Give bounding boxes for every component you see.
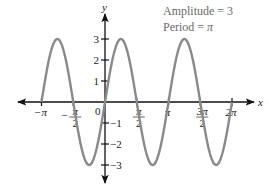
y-tick-label: −1 [110, 117, 122, 129]
x-tick-label: −π [34, 106, 47, 118]
y-tick-label: 1 [94, 75, 100, 87]
origin-label: 0 [95, 105, 101, 117]
x-axis-label: x [257, 96, 263, 108]
y-tick-label: 3 [94, 33, 100, 45]
y-axis-label: y [101, 1, 107, 13]
annotation: Amplitude = 3 Period = π [163, 3, 233, 35]
period-text: Period = π [163, 19, 233, 35]
y-tick-label: −3 [110, 159, 122, 171]
amplitude-text: Amplitude = 3 [163, 3, 233, 19]
y-tick-label: 2 [94, 54, 100, 66]
y-tick-label: −2 [110, 138, 122, 150]
svg-text:−: − [61, 109, 67, 121]
